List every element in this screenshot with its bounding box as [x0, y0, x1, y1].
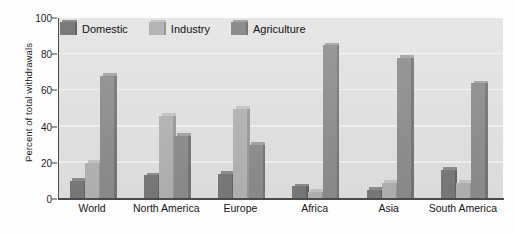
- bar-side: [188, 136, 191, 199]
- bar-industry-asia: [382, 183, 396, 199]
- y-tick-label: 80: [26, 49, 52, 60]
- chart-legend: DomesticIndustryAgriculture: [60, 22, 306, 35]
- bar-side: [114, 76, 117, 199]
- bar-agriculture-north-america: [174, 136, 188, 199]
- y-tick-label: 0: [26, 194, 52, 205]
- x-axis-tick-labels: WorldNorth AmericaEuropeAfricaAsiaSouth …: [58, 202, 503, 222]
- legend-item-industry: Industry: [149, 22, 210, 35]
- bar-agriculture-world: [100, 76, 114, 199]
- bar-face: [144, 175, 158, 199]
- legend-swatch-agriculture: [231, 22, 246, 35]
- bar-group: [133, 18, 207, 199]
- legend-label: Industry: [171, 23, 210, 35]
- bar-face: [456, 183, 470, 199]
- swatch-side: [164, 22, 166, 35]
- bar-face: [382, 183, 396, 199]
- bar-group: [207, 18, 281, 199]
- y-tick-label: 40: [26, 121, 52, 132]
- legend-swatch-industry: [149, 22, 164, 35]
- swatch-face: [60, 22, 75, 35]
- legend-label: Agriculture: [253, 23, 306, 35]
- legend-item-domestic: Domestic: [60, 22, 128, 35]
- bar-face: [249, 145, 263, 199]
- bar-domestic-europe: [218, 174, 232, 199]
- bar-face: [397, 58, 411, 199]
- bar-agriculture-south-america: [471, 83, 485, 199]
- x-tick-label: Africa: [301, 202, 328, 214]
- bar-face: [85, 163, 99, 199]
- y-tick-mark: [52, 199, 57, 200]
- legend-item-agriculture: Agriculture: [231, 22, 306, 35]
- bar-agriculture-asia: [397, 58, 411, 199]
- y-tick-label: 60: [26, 85, 52, 96]
- legend-label: Domestic: [82, 23, 128, 35]
- bar-face: [159, 116, 173, 199]
- bar-agriculture-africa: [323, 45, 337, 199]
- bar-group: [59, 18, 133, 199]
- bar-industry-europe: [233, 109, 247, 200]
- bar-face: [233, 109, 247, 200]
- legend-swatch-domestic: [60, 22, 75, 35]
- x-tick-label: South America: [429, 202, 497, 214]
- bar-domestic-north-america: [144, 175, 158, 199]
- bar-face: [70, 181, 84, 199]
- swatch-side: [75, 22, 77, 35]
- chart-figure: Percent of total withdrawals 02040608010…: [0, 0, 515, 234]
- y-tick-mark: [52, 90, 57, 91]
- y-tick-mark: [52, 54, 57, 55]
- bar-series-container: [59, 18, 503, 199]
- swatch-face: [149, 22, 164, 35]
- bar-industry-north-america: [159, 116, 173, 199]
- bar-face: [292, 186, 306, 199]
- bar-face: [100, 76, 114, 199]
- bar-side: [263, 145, 266, 199]
- x-tick-label: Europe: [223, 202, 257, 214]
- swatch-side: [246, 22, 248, 35]
- y-tick-mark: [52, 126, 57, 127]
- plot-area: [58, 18, 503, 199]
- bar-face: [174, 136, 188, 199]
- swatch-face: [231, 22, 246, 35]
- bar-face: [218, 174, 232, 199]
- bar-side: [411, 58, 414, 199]
- bar-group: [356, 18, 430, 199]
- bar-face: [323, 45, 337, 199]
- bar-side: [337, 45, 340, 199]
- bar-agriculture-europe: [249, 145, 263, 199]
- bar-face: [441, 170, 455, 199]
- x-tick-label: Asia: [379, 202, 399, 214]
- x-tick-label: World: [78, 202, 105, 214]
- bar-group: [282, 18, 356, 199]
- bar-side: [485, 83, 488, 199]
- bar-domestic-world: [70, 181, 84, 199]
- bar-domestic-south-america: [441, 170, 455, 199]
- bar-domestic-africa: [292, 186, 306, 199]
- x-tick-label: North America: [133, 202, 200, 214]
- bar-industry-south-america: [456, 183, 470, 199]
- y-tick-mark: [52, 18, 57, 19]
- bar-group: [430, 18, 503, 199]
- x-axis-line: [58, 198, 504, 200]
- bar-face: [471, 83, 485, 199]
- y-tick-label: 20: [26, 157, 52, 168]
- y-tick-label: 100: [26, 13, 52, 24]
- y-axis-ticks: 020406080100: [22, 0, 52, 234]
- y-tick-mark: [52, 162, 57, 163]
- bar-industry-world: [85, 163, 99, 199]
